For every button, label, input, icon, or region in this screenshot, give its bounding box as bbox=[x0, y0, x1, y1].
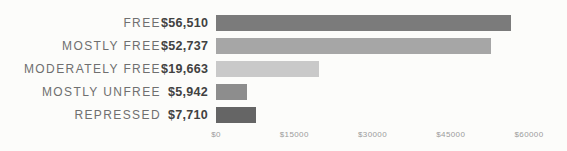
chart-row: MOSTLY FREE $52,737 bbox=[3, 38, 529, 54]
category-label: REPRESSED bbox=[3, 107, 161, 123]
bar-track bbox=[216, 61, 529, 77]
x-axis-tick: $45000 bbox=[436, 130, 465, 139]
value-label: $19,663 bbox=[161, 61, 208, 77]
chart-row: MOSTLY UNFREE $5,942 bbox=[3, 84, 529, 100]
bar-track bbox=[216, 15, 529, 31]
value-label: $7,710 bbox=[161, 107, 208, 123]
category-label: FREE bbox=[3, 15, 161, 31]
x-axis-tick: $0 bbox=[211, 130, 221, 139]
x-axis: $0 $15000 $30000 $45000 $60000 bbox=[3, 130, 529, 142]
category-label: MOSTLY UNFREE bbox=[3, 84, 161, 100]
bar bbox=[216, 38, 491, 54]
bar bbox=[216, 107, 256, 123]
value-label: $5,942 bbox=[161, 84, 208, 100]
bar bbox=[216, 15, 511, 31]
economic-freedom-bar-chart: FREE $56,510 MOSTLY FREE $52,737 MODERAT… bbox=[0, 0, 567, 151]
bar-track bbox=[216, 38, 529, 54]
chart-row: MODERATELY FREE $19,663 bbox=[3, 61, 529, 77]
x-axis-track: $0 $15000 $30000 $45000 $60000 bbox=[216, 130, 529, 142]
chart-row: FREE $56,510 bbox=[3, 15, 529, 31]
chart-row: REPRESSED $7,710 bbox=[3, 107, 529, 123]
x-axis-tick: $30000 bbox=[358, 130, 387, 139]
x-axis-tick: $60000 bbox=[514, 130, 543, 139]
category-label: MOSTLY FREE bbox=[3, 38, 161, 54]
bar-track bbox=[216, 84, 529, 100]
bar bbox=[216, 84, 247, 100]
x-axis-tick: $15000 bbox=[280, 130, 309, 139]
category-label: MODERATELY FREE bbox=[3, 61, 161, 77]
value-label: $56,510 bbox=[161, 15, 208, 31]
bar-track bbox=[216, 107, 529, 123]
value-label: $52,737 bbox=[161, 38, 208, 54]
bar bbox=[216, 61, 319, 77]
